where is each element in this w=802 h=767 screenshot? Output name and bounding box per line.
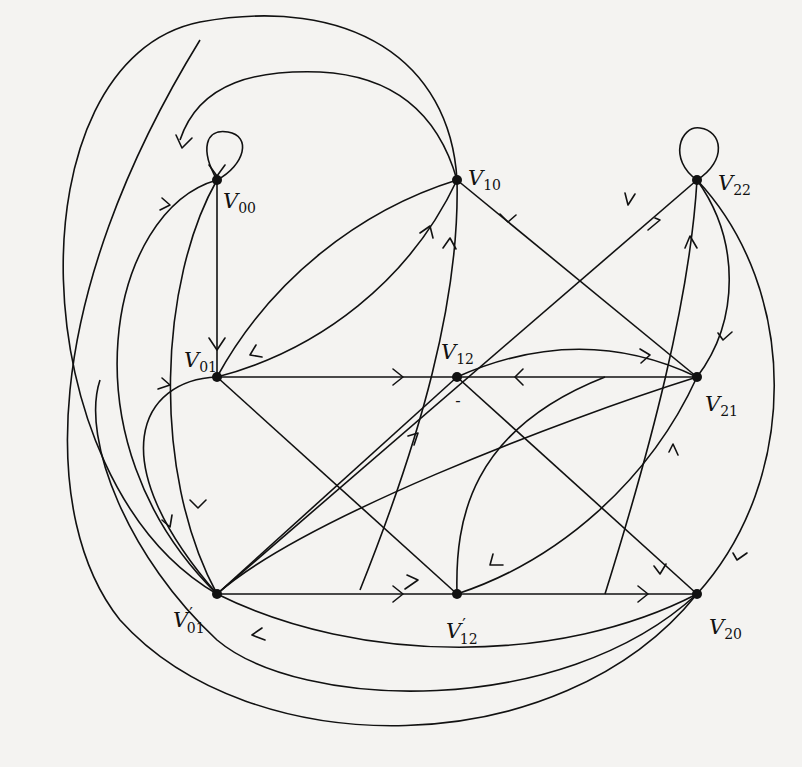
edge-v01p-v22 [217,180,697,594]
v12-minus: - [455,391,460,410]
node-v00 [212,175,222,185]
edge-self-loop-v00 [207,132,243,180]
node-label-v12: V12 [441,340,474,367]
node-label-v22: V22 [718,171,751,198]
edges [63,16,774,726]
arrowhead-icon [669,444,678,455]
arrowhead-icon [490,554,503,565]
node-v12 [452,372,462,382]
node-v10 [452,175,462,185]
node-label-v21: V21 [705,392,738,419]
arrowhead-icon [176,135,192,148]
arrowhead-icon [252,628,265,640]
edge-v22-v21 [697,180,729,377]
node-label-v10: V10 [468,166,501,193]
node-label-v01: V01 [184,348,217,375]
node-label-v00: V00 [223,189,256,216]
edge-outer-top-2 [180,72,457,180]
edge-v12-v22 [605,180,697,594]
edge-self-loop-v22 [680,128,719,180]
node-labels: V00V10V22V01V12V21V′01V′12V20 [173,166,751,647]
arrowhead-icon [640,349,650,363]
node-label-v12p: V′12 [446,615,478,647]
arrowhead-icon [160,198,170,210]
edge-outer-bottom-2 [67,40,697,726]
edge-v12p-v10 [360,180,457,590]
edge-v12-v20 [457,377,697,594]
edge-v22-v20 [697,180,774,594]
node-label-v01p: V′01 [173,604,205,636]
arrowhead-icon [625,193,635,205]
edge-v10-v21 [457,180,697,377]
node-label-v20: V20 [709,615,742,642]
node-v22 [692,175,702,185]
node-v21 [692,372,702,382]
arrowhead-icon [733,553,747,560]
arrowhead-icon [190,500,206,508]
node-v20 [692,589,702,599]
node-v01p [212,589,222,599]
directed-graph: V00V10V22V01V12V21V′01V′12V20 - [0,0,802,767]
node-v12p [452,589,462,599]
extra-marks: - [455,391,460,410]
arrowhead-icon [405,575,418,589]
edge-v12-v21 [457,349,697,377]
arrowhead-icon [158,378,170,389]
arrowhead-icon [250,345,262,357]
arrowhead-icon [654,564,666,574]
